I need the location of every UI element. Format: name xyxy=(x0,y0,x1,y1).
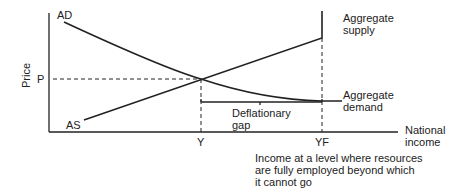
y-axis-label: Price xyxy=(20,63,32,88)
full-employment-note-line2: are fully employed beyond which xyxy=(255,164,415,176)
deflationary-gap-label-line1: Deflationary xyxy=(232,107,291,119)
as-label: AS xyxy=(66,119,81,131)
aggregate-demand-curve xyxy=(64,22,342,101)
aggregate-supply-label-line2: supply xyxy=(343,24,375,36)
aggregate-supply-label-line1: Aggregate xyxy=(343,12,394,24)
deflationary-gap-label-line2: gap xyxy=(232,119,250,131)
national-income-label-line2: income xyxy=(405,136,440,148)
aggregate-demand-label-line2: demand xyxy=(343,101,383,113)
ad-label: AD xyxy=(57,9,72,21)
aggregate-demand-label-line1: Aggregate xyxy=(343,89,394,101)
national-income-label-line1: National xyxy=(405,124,445,136)
full-employment-note-line1: Income at a level where resources xyxy=(255,152,423,164)
full-employment-note-line3: it cannot go xyxy=(255,176,312,188)
aggregate-supply-curve xyxy=(84,11,322,120)
x-tick-y: Y xyxy=(197,136,204,148)
x-tick-yf: YF xyxy=(315,136,329,148)
y-tick-p: P xyxy=(37,73,44,85)
